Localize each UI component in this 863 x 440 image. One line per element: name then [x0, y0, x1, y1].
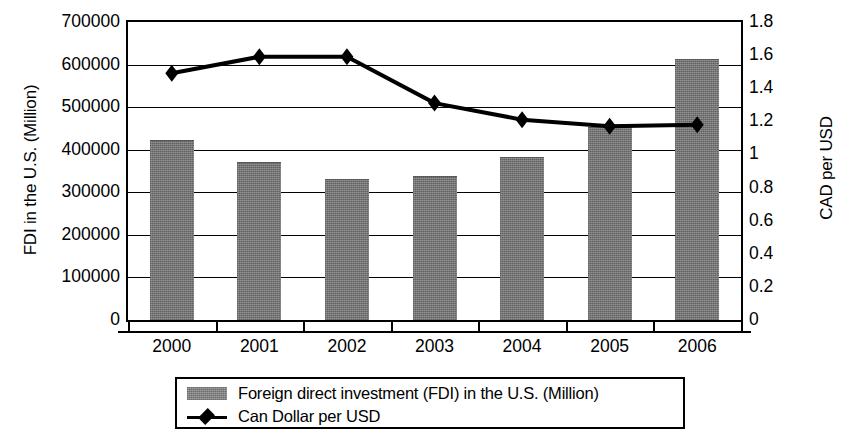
plot-area — [126, 20, 743, 322]
x-axis-label-2003: 2003 — [415, 336, 454, 357]
line-marker-2006 — [691, 116, 704, 133]
y-axis-left-ticks: 0100000200000300000400000500000600000700… — [14, 20, 120, 322]
line-marker-2003 — [428, 95, 441, 112]
x-tickmark — [741, 322, 743, 331]
line-path — [172, 57, 697, 127]
y-left-tick-label: 400000 — [62, 141, 120, 159]
y-right-tick-label: 0.2 — [749, 278, 773, 296]
line-marker-2000 — [165, 65, 178, 82]
chart-legend: Foreign direct investment (FDI) in the U… — [175, 377, 685, 429]
x-axis-line — [118, 331, 751, 333]
y-right-tick-label: 1.4 — [749, 79, 773, 97]
x-axis-label-2000: 2000 — [152, 336, 191, 357]
x-axis-labels: 2000200120022003200420052006 — [126, 336, 743, 364]
y-left-tick-label: 500000 — [62, 98, 120, 116]
plot-inner — [128, 22, 741, 320]
legend-entry-cad: Can Dollar per USD — [187, 405, 683, 428]
line-marker-2002 — [340, 48, 353, 65]
y-right-tick-label: 1.6 — [749, 46, 773, 64]
x-axis-label-2001: 2001 — [240, 336, 279, 357]
y-right-tick-label: 0 — [749, 311, 759, 329]
line-marker-2005 — [603, 118, 616, 135]
legend-line-diamond-icon — [187, 410, 227, 424]
y-left-tick-label: 700000 — [62, 13, 120, 31]
x-tickmark — [653, 322, 655, 331]
legend-entry-fdi: Foreign direct investment (FDI) in the U… — [187, 382, 683, 405]
y-left-tick-label: 0 — [110, 311, 120, 329]
y-left-tick-label: 200000 — [62, 226, 120, 244]
line-marker-2004 — [516, 111, 529, 128]
y-right-tick-label: 0.4 — [749, 245, 773, 263]
y-right-tick-label: 0.8 — [749, 179, 773, 197]
x-tickmark — [566, 322, 568, 331]
line-series-cad — [128, 22, 741, 320]
y-left-tick-label: 300000 — [62, 184, 120, 202]
y-axis-right-title: CAD per USD — [817, 58, 837, 278]
line-marker-2001 — [253, 48, 266, 65]
y-left-tick-label: 600000 — [62, 56, 120, 74]
x-axis-label-2005: 2005 — [590, 336, 629, 357]
y-axis-right-ticks: 00.20.40.60.811.21.41.61.8 — [749, 20, 809, 322]
legend-bar-swatch-icon — [187, 387, 227, 400]
x-axis-label-2006: 2006 — [678, 336, 717, 357]
y-right-tick-label: 1 — [749, 146, 759, 164]
x-axis-label-2002: 2002 — [327, 336, 366, 357]
x-tickmark — [128, 322, 130, 331]
x-tickmark — [391, 322, 393, 331]
x-tickmark — [478, 322, 480, 331]
chart-figure: FDI in the U.S. (Million) CAD per USD 01… — [0, 0, 863, 440]
y-left-tick-label: 100000 — [62, 269, 120, 287]
legend-label-cad: Can Dollar per USD — [238, 407, 380, 426]
y-right-tick-label: 1.2 — [749, 113, 773, 131]
x-tickmark — [216, 322, 218, 331]
legend-label-fdi: Foreign direct investment (FDI) in the U… — [238, 384, 599, 403]
x-axis-label-2004: 2004 — [503, 336, 542, 357]
y-right-tick-label: 1.8 — [749, 13, 773, 31]
y-right-tick-label: 0.6 — [749, 212, 773, 230]
x-tickmark — [303, 322, 305, 331]
